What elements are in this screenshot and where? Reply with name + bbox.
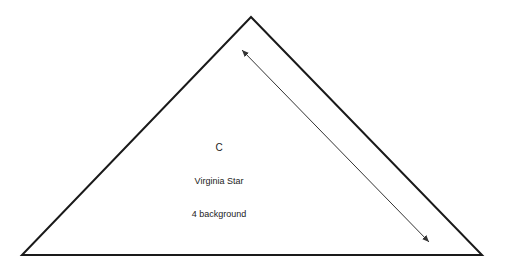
piece-letter-label: C [215, 142, 222, 153]
pattern-name-label: Virginia Star [195, 176, 244, 186]
triangle-template-outline [22, 17, 482, 255]
grain-line-arrow [242, 50, 429, 242]
cut-instruction-label: 4 background [192, 209, 247, 219]
diagram-canvas [0, 0, 505, 272]
